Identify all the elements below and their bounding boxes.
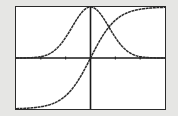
graph-plot: [0, 0, 178, 116]
